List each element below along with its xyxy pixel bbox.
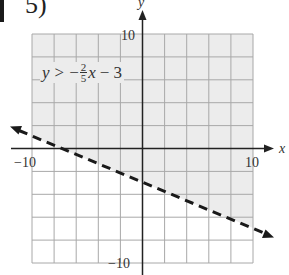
inequality-variable: x bbox=[88, 63, 96, 83]
inequality-constant: − 3 bbox=[100, 63, 122, 83]
y-min-tick-label: −10 bbox=[108, 256, 130, 271]
y-axis-arrow-icon bbox=[139, 10, 147, 20]
x-min-tick-label: −10 bbox=[14, 155, 36, 170]
fraction-denominator: 5 bbox=[81, 73, 87, 83]
x-axis-label: x bbox=[278, 141, 286, 156]
y-max-tick-label: 10 bbox=[121, 28, 135, 43]
inequality-sign: − bbox=[69, 63, 79, 83]
inequality-label: y > − 2 5 x − 3 bbox=[40, 62, 124, 83]
x-max-tick-label: 10 bbox=[245, 155, 259, 170]
inequality-operator: > bbox=[55, 63, 65, 83]
inequality-fraction: 2 5 bbox=[80, 62, 88, 83]
coordinate-plane: x y −10 10 10 −10 bbox=[0, 0, 289, 275]
y-axis-label: y bbox=[136, 0, 145, 10]
inequality-lhs: y bbox=[42, 63, 50, 83]
boundary-left-arrow-icon bbox=[10, 126, 22, 135]
boundary-right-arrow-icon bbox=[262, 230, 274, 239]
x-axis-arrow-icon bbox=[264, 145, 274, 153]
